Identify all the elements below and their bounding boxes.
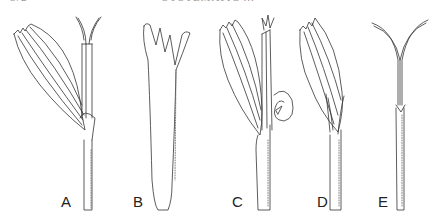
panel-label-b: B [133,194,143,209]
panel-c-drawing [220,15,293,210]
panel-label-d: D [317,194,328,209]
panel-label-e: E [378,194,388,209]
panel-a-drawing [14,17,101,210]
panel-e-drawing [372,20,428,210]
panel-label-c: C [232,194,243,209]
panel-label-a: A [61,194,71,209]
panel-d-drawing [300,18,344,210]
botanical-figure [0,0,439,220]
panel-b-drawing [144,24,191,210]
